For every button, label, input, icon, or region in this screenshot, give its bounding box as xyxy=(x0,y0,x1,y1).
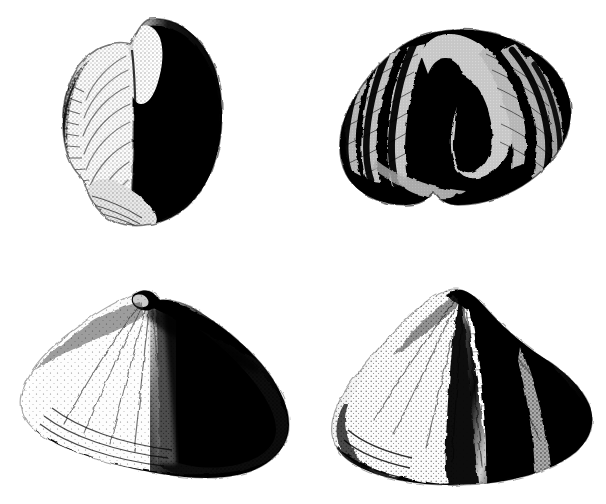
illustration-plate xyxy=(0,0,606,504)
plate-canvas xyxy=(0,0,606,504)
